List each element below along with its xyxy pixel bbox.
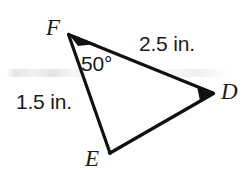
angle-measure-label-f: 50° (81, 53, 112, 74)
vertex-e-corner-thickening (108, 150, 112, 154)
side-length-label-fd: 2.5 in. (139, 33, 195, 54)
vertex-label-f: F (46, 16, 60, 39)
geometry-figure: F D E 2.5 in. 1.5 in. 50° (0, 0, 248, 179)
vertex-label-e: E (85, 147, 99, 170)
side-length-label-fe: 1.5 in. (16, 91, 72, 112)
vertex-label-d: D (221, 80, 238, 103)
